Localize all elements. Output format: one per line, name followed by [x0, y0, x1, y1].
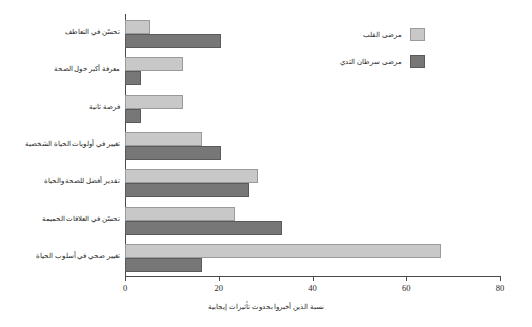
x-axis-tick	[406, 276, 407, 281]
bar	[125, 221, 282, 235]
category-label: تغيير صحي في أسلوب الحياة	[2, 252, 120, 261]
x-axis-tick-label: 60	[402, 283, 411, 293]
category-label: فرصة ثانية	[2, 103, 120, 112]
bar	[125, 20, 150, 34]
category-label: تقدير أفضل للصحة والحياة	[2, 177, 120, 186]
legend-swatch-breast-cancer-patients	[410, 55, 425, 68]
legend-swatch-heart-patients	[410, 28, 425, 41]
legend-label-heart-patients: مرضى القلب	[363, 30, 402, 39]
bar	[125, 57, 183, 71]
legend-item: مرضى سرطان الثدي	[340, 55, 425, 68]
bar	[125, 207, 235, 221]
x-axis-tick	[313, 276, 314, 281]
bar	[125, 183, 249, 197]
bar	[125, 244, 441, 258]
x-axis-tick	[500, 276, 501, 281]
category-label: معرفة أكبر حول الصحة	[2, 65, 120, 74]
category-label: تحسّن في التعاطف	[2, 28, 120, 37]
x-axis-tick-label: 40	[308, 283, 317, 293]
bar	[125, 146, 221, 160]
bar	[125, 34, 221, 48]
category-label: تغيير في أولويات الحياة الشخصية	[2, 140, 120, 149]
x-axis-title: نسبة الذين أخبروا بحدوث تأثيرات إيجابية	[0, 302, 532, 311]
bar	[125, 71, 141, 85]
legend: مرضى القلب مرضى سرطان الثدي	[340, 28, 425, 82]
bar-chart: تحسّن في التعاطفمعرفة أكبر حول الصحةفرصة…	[0, 0, 532, 327]
x-axis-tick-label: 80	[496, 283, 505, 293]
bar	[125, 109, 141, 123]
x-axis-tick-label: 20	[215, 283, 224, 293]
x-axis-tick	[219, 276, 220, 281]
category-label: تحسّن في العلاقات الحميمة	[2, 215, 120, 224]
x-axis-tick-label: 0	[123, 283, 127, 293]
bar	[125, 258, 202, 272]
bar	[125, 132, 202, 146]
x-axis-tick	[125, 276, 126, 281]
bar	[125, 169, 258, 183]
legend-label-breast-cancer-patients: مرضى سرطان الثدي	[340, 57, 402, 66]
legend-item: مرضى القلب	[340, 28, 425, 41]
bar	[125, 95, 183, 109]
